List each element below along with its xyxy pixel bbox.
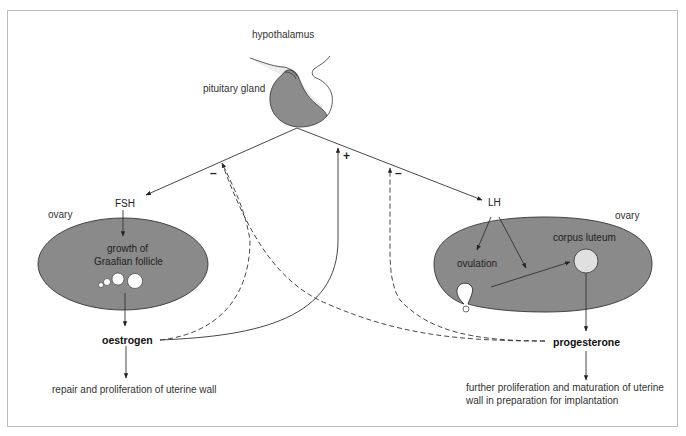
corpus-luteum-label: corpus luteum	[553, 232, 616, 244]
right-ovary-label: ovary	[615, 210, 639, 222]
lh-label: LH	[488, 197, 501, 209]
oestrogen-label: oestrogen	[102, 334, 153, 346]
pituitary-to-fsh-arrow	[146, 128, 297, 195]
graafian-label-line2: Graafian follicle	[94, 256, 163, 268]
pituitary-gland-label: pituitary gland	[203, 83, 265, 95]
progesterone-effect-line2: wall in preparation for implantation	[466, 395, 618, 407]
oestrogen-fsh-negative-sign: –	[210, 167, 217, 179]
progesterone-lh-negative-sign: –	[395, 167, 402, 179]
fsh-label: FSH	[115, 198, 135, 210]
corpus-luteum	[574, 249, 598, 273]
graafian-label-line1: growth of	[107, 243, 148, 255]
oestrogen-lh-positive-sign: +	[343, 150, 350, 162]
left-ovary-label: ovary	[48, 209, 72, 221]
oestrogen-effect-label: repair and proliferation of uterine wall	[52, 384, 217, 396]
progesterone-effect-line1: further proliferation and maturation of …	[466, 382, 664, 394]
diagram-canvas	[0, 0, 686, 436]
ovulation-label: ovulation	[457, 258, 497, 270]
released-ovum	[463, 306, 469, 312]
hypothalamus-label: hypothalamus	[252, 29, 314, 41]
progesterone-label: progesterone	[553, 336, 620, 348]
pituitary-to-lh-arrow	[297, 128, 482, 200]
